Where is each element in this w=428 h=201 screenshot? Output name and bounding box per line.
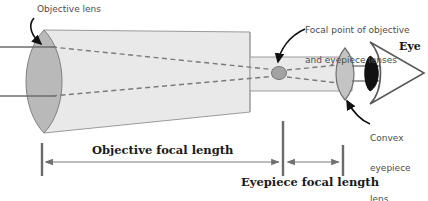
convex-label-line1: Convex — [370, 133, 411, 143]
convex-label-line2: eyepiece — [370, 163, 411, 173]
convex-label-line3: lens — [370, 194, 411, 201]
focal-point-label-line2: and eyepiece lenses — [305, 55, 410, 65]
objective-focal-length-label: Objective focal length — [92, 144, 233, 157]
focal-point-label: Focal point of objective and eyepiece le… — [305, 5, 410, 86]
telescope-diagram: Objective lens Focal point of objective … — [0, 0, 428, 201]
convex-lens-pointer-icon — [347, 101, 370, 124]
eye-label: Eye — [399, 41, 421, 53]
focal-point-icon — [272, 67, 287, 80]
objective-barrel-body — [44, 30, 250, 133]
focal-point-label-line1: Focal point of objective — [305, 25, 410, 35]
focal-point-blob — [272, 67, 287, 80]
eyepiece-focal-length-label: Eyepiece focal length — [241, 176, 379, 189]
objective-lens-label: Objective lens — [37, 4, 101, 14]
